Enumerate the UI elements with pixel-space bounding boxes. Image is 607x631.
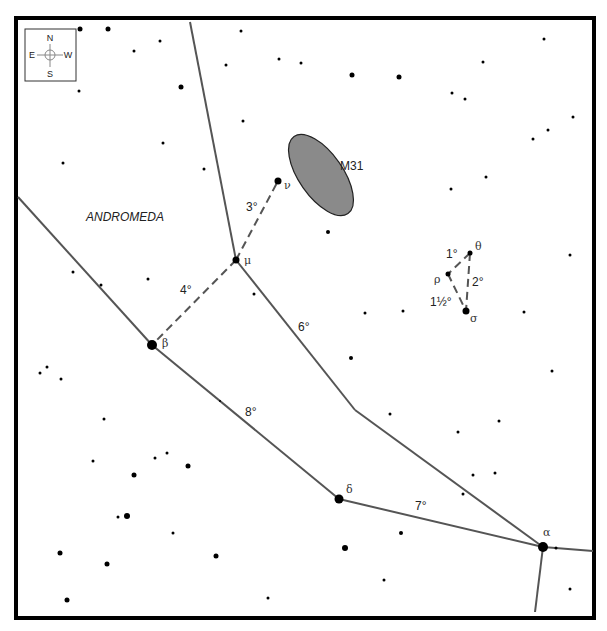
star-label-delta: δ bbox=[346, 483, 353, 496]
galaxy-label: M31 bbox=[340, 159, 364, 173]
star bbox=[547, 129, 550, 132]
star bbox=[494, 472, 497, 475]
star bbox=[78, 90, 81, 93]
star bbox=[498, 420, 501, 423]
star bbox=[551, 370, 554, 373]
distance-label: 6° bbox=[298, 320, 310, 334]
star bbox=[117, 516, 120, 519]
star bbox=[342, 545, 348, 551]
star-sigma bbox=[463, 308, 470, 315]
star bbox=[105, 562, 110, 567]
distance-label: 1½° bbox=[430, 295, 452, 309]
star bbox=[350, 73, 355, 78]
star bbox=[225, 64, 228, 67]
star bbox=[214, 554, 219, 559]
star bbox=[569, 254, 572, 257]
star bbox=[389, 413, 392, 416]
chart-border bbox=[16, 18, 594, 618]
star bbox=[159, 40, 162, 43]
star-alpha bbox=[538, 542, 548, 552]
star bbox=[124, 513, 130, 519]
constellation-label: ANDROMEDA bbox=[85, 210, 164, 224]
star bbox=[450, 188, 453, 191]
star bbox=[179, 85, 184, 90]
star bbox=[485, 176, 488, 179]
star bbox=[349, 356, 353, 360]
star bbox=[106, 27, 111, 32]
star-label-alpha: α bbox=[543, 526, 551, 539]
star bbox=[242, 120, 245, 123]
star-label-mu: μ bbox=[244, 254, 251, 267]
star bbox=[100, 284, 103, 287]
distance-label: 4° bbox=[180, 283, 192, 297]
distance-label: 1° bbox=[446, 247, 458, 261]
star bbox=[186, 464, 191, 469]
star bbox=[92, 460, 95, 463]
star bbox=[172, 532, 175, 535]
star bbox=[62, 162, 65, 165]
star bbox=[472, 474, 475, 477]
star bbox=[267, 597, 270, 600]
star bbox=[162, 142, 165, 145]
star-theta bbox=[468, 251, 473, 256]
compass-w: W bbox=[64, 50, 73, 60]
star bbox=[300, 62, 303, 65]
star bbox=[253, 293, 256, 296]
star bbox=[278, 58, 281, 61]
star bbox=[364, 312, 367, 315]
star bbox=[457, 431, 460, 434]
star bbox=[60, 378, 63, 381]
star-label-rho: ρ bbox=[434, 273, 440, 286]
distance-label: 7° bbox=[415, 499, 427, 513]
star bbox=[132, 473, 137, 478]
star-beta bbox=[147, 340, 157, 350]
star bbox=[464, 98, 467, 101]
star-rho bbox=[446, 272, 451, 277]
star-delta bbox=[335, 495, 344, 504]
star bbox=[462, 493, 465, 496]
star bbox=[572, 116, 575, 119]
star bbox=[326, 230, 330, 234]
distance-label: 8° bbox=[245, 405, 257, 419]
star bbox=[451, 92, 454, 95]
star bbox=[399, 531, 403, 535]
star bbox=[46, 366, 49, 369]
compass: N S E W bbox=[25, 29, 76, 81]
star bbox=[569, 588, 572, 591]
star bbox=[147, 278, 150, 281]
distance-label: 3° bbox=[246, 200, 258, 214]
star bbox=[78, 27, 83, 32]
star bbox=[154, 457, 157, 460]
star-label-nu: ν bbox=[284, 179, 291, 192]
star-label-theta: θ bbox=[475, 240, 482, 253]
star bbox=[543, 38, 546, 41]
star bbox=[166, 452, 169, 455]
star bbox=[523, 311, 526, 314]
star-label-beta: β bbox=[162, 337, 168, 350]
star bbox=[65, 598, 70, 603]
star bbox=[532, 138, 535, 141]
distance-label: 2° bbox=[472, 275, 484, 289]
star bbox=[58, 551, 63, 556]
compass-n: N bbox=[47, 33, 54, 43]
star bbox=[72, 271, 75, 274]
star bbox=[39, 372, 42, 375]
star bbox=[103, 418, 106, 421]
star bbox=[240, 30, 243, 33]
star-label-sigma: σ bbox=[470, 312, 478, 325]
star-chart: M31 αβδμνθρσ 3°4°6°8°7°1°2°1½° ANDROMEDA… bbox=[0, 0, 607, 631]
star-nu bbox=[275, 178, 282, 185]
star bbox=[555, 547, 558, 550]
compass-s: S bbox=[47, 69, 53, 79]
star bbox=[383, 579, 386, 582]
star bbox=[203, 168, 206, 171]
star bbox=[219, 400, 221, 402]
star-mu bbox=[233, 257, 240, 264]
star bbox=[482, 61, 485, 64]
star bbox=[397, 75, 402, 80]
compass-e: E bbox=[29, 50, 35, 60]
star bbox=[133, 50, 136, 53]
star bbox=[402, 310, 405, 313]
